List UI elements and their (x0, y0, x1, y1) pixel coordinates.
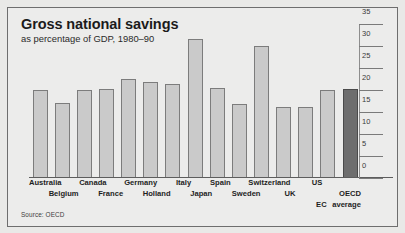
y-axis: 05101520253035 (359, 24, 383, 178)
y-tick (359, 68, 383, 69)
x-label-switzerland: Switzerland (248, 178, 290, 188)
bar-italy[interactable] (165, 84, 180, 177)
y-tick-label: 10 (362, 118, 370, 126)
bar-slot (95, 24, 117, 177)
x-label-spain: Spain (210, 178, 231, 188)
x-label-holland: Holland (143, 189, 171, 199)
y-tick-label: 35 (362, 8, 370, 16)
bar-sweden[interactable] (232, 104, 247, 177)
bar-australia[interactable] (33, 90, 48, 177)
bar-slot (339, 24, 361, 177)
x-label-germany: Germany (124, 178, 157, 188)
plot-area (29, 24, 361, 178)
bar-slot (184, 24, 206, 177)
y-tick (359, 90, 383, 91)
x-label-australia: Australia (29, 178, 62, 188)
bar-slot (51, 24, 73, 177)
y-tick-label: 15 (362, 96, 370, 104)
bar-slot (118, 24, 140, 177)
x-label-row-bottom: Belgium France Holland Japan Sweden UK O… (29, 189, 361, 199)
bar-canada[interactable] (77, 90, 92, 177)
bar-slot (250, 24, 272, 177)
y-tick (359, 156, 383, 157)
bar-slot (140, 24, 162, 177)
x-label-ec-average: EC (311, 200, 333, 210)
bar-uk[interactable] (276, 107, 291, 177)
source-note: Source: OECD (21, 211, 64, 218)
bar-slot (73, 24, 95, 177)
x-label-oecd-average: average (332, 200, 361, 210)
y-tick-label: 0 (362, 162, 366, 170)
y-tick-label: 20 (362, 74, 370, 82)
x-label-row-top: Australia Canada Germany Italy Spain Swi… (29, 178, 361, 188)
x-label-france: France (98, 189, 123, 199)
bar-switzerland[interactable] (254, 46, 269, 177)
bar-spain[interactable] (210, 88, 225, 177)
bar-slot (162, 24, 184, 177)
x-axis-labels: Australia Canada Germany Italy Spain Swi… (29, 178, 361, 212)
bar-ec-average[interactable] (320, 90, 335, 177)
bar-us[interactable] (298, 107, 313, 177)
bar-france[interactable] (99, 89, 114, 177)
bar-slot (295, 24, 317, 177)
x-label-japan: Japan (190, 189, 212, 199)
x-label-italy: Italy (175, 178, 193, 188)
y-tick (359, 178, 383, 179)
bar-slot (206, 24, 228, 177)
y-tick-label: 25 (362, 52, 370, 60)
bar-slot (228, 24, 250, 177)
chart-frame: Gross national savings as percentage of … (7, 7, 398, 227)
x-label-uk: UK (280, 189, 300, 199)
x-label-row-third: ECaverage (29, 200, 361, 210)
bar-japan[interactable] (188, 39, 203, 177)
y-tick (359, 112, 383, 113)
bar-slot (317, 24, 339, 177)
y-tick (359, 46, 383, 47)
bar-series (29, 24, 361, 177)
y-tick (359, 134, 383, 135)
x-label-oecd-average: OECD (339, 189, 361, 199)
bar-belgium[interactable] (55, 103, 70, 177)
bar-oecd-average[interactable] (343, 89, 358, 177)
y-tick-label: 5 (362, 140, 366, 148)
x-label-canada: Canada (79, 178, 106, 188)
y-tick-label: 30 (362, 30, 370, 38)
bar-germany[interactable] (121, 79, 136, 177)
bar-slot (29, 24, 51, 177)
x-label-us: US (308, 178, 326, 188)
x-label-belgium: Belgium (49, 189, 79, 199)
y-tick (359, 24, 383, 25)
bar-slot (273, 24, 295, 177)
chart-figure: Gross national savings as percentage of … (0, 0, 405, 233)
bar-holland[interactable] (143, 82, 158, 177)
x-label-sweden: Sweden (232, 189, 261, 199)
